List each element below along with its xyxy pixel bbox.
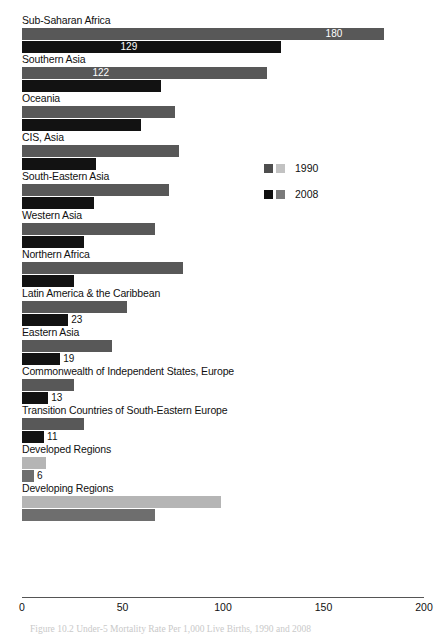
bar-value-label: 26 [0,274,71,287]
chart-group: Northern Africa8026 [0,248,439,287]
bar-value-label: 76 [0,105,172,118]
bar-value-label: 66 [0,508,152,521]
bar-value-label: 45 [0,339,109,352]
chart-group: Transition Countries of South-Eastern Eu… [0,404,439,443]
chart-group: Eastern Asia4519 [0,326,439,365]
group-category-label: Developed Regions [0,443,439,456]
bar-2008[interactable] [22,353,60,365]
legend-label: 1990 [295,162,318,175]
group-category-label: Oceania [0,92,439,105]
bar-2008[interactable] [22,314,68,326]
bar-row: 122 [22,67,439,79]
bar-row: 45 [22,340,439,352]
bar-row: 69 [22,80,439,92]
group-category-label: Eastern Asia [0,326,439,339]
chart-group: Western Asia6631 [0,209,439,248]
legend-item-2008[interactable]: 2008 [264,186,384,202]
bar-row: 78 [22,145,439,157]
bar-value-label: 11 [47,430,57,443]
bar-row: 66 [22,509,439,521]
legend-swatch-primary [264,164,273,173]
bar-value-label: 37 [0,157,93,170]
group-category-label: Northern Africa [0,248,439,261]
bar-value-label: 73 [0,183,166,196]
x-tick-150: 150 [315,600,333,614]
bar-row: 129 [22,41,439,53]
bar-value-label: 36 [0,196,91,209]
bar-value-label: 129 [121,40,279,53]
figure-under5-mortality: Sub-Saharan Africa180129Southern Asia122… [0,0,439,637]
bar-row: 26 [22,379,439,391]
bar-row: 12 [22,457,439,469]
bar-row: 31 [22,236,439,248]
x-tick-50: 50 [117,600,129,614]
bar-row: 80 [22,262,439,274]
bar-2008[interactable] [22,470,34,482]
x-tick-0: 0 [19,600,25,614]
chart-group: Developing Regions9966 [0,482,439,521]
bar-row: 99 [22,496,439,508]
x-tick-200: 200 [415,600,433,614]
bar-value-label: 122 [92,66,264,79]
bar-value-label: 12 [0,456,43,469]
bar-row: 180 [22,28,439,40]
legend-swatch-secondary [276,190,285,199]
bar-value-label: 78 [0,144,176,157]
bar-row: 31 [22,418,439,430]
chart-group: Commonwealth of Independent States, Euro… [0,365,439,404]
legend-swatch-primary [264,190,273,199]
bar-value-label: 66 [0,222,152,235]
x-tick-100: 100 [214,600,232,614]
figure-caption: Figure 10.2 Under-5 Mortality Rate Per 1… [30,623,430,635]
chart-group: Southern Asia12269 [0,53,439,92]
bar-row: 11 [22,431,439,443]
group-category-label: Commonwealth of Independent States, Euro… [0,365,439,378]
bar-row: 23 [22,314,439,326]
bar-value-label: 23 [71,313,82,326]
x-axis-line [22,597,424,598]
x-axis-tick-labels: 050100150200 [0,600,439,616]
bar-row: 66 [22,223,439,235]
bar-value-label: 26 [0,378,71,391]
bar-value-label: 31 [0,417,81,430]
bar-value-label: 180 [326,27,381,40]
legend-label: 2008 [295,188,318,201]
bar-row: 59 [22,119,439,131]
bar-row: 19 [22,353,439,365]
bar-row: 76 [22,106,439,118]
bar-value-label: 59 [0,118,138,131]
chart-group: Sub-Saharan Africa180129 [0,14,439,53]
bar-value-label: 80 [0,261,180,274]
chart-group: Latin America & the Caribbean5223 [0,287,439,326]
bar-row: 6 [22,470,439,482]
group-category-label: Southern Asia [0,53,439,66]
bar-value-label: 6 [37,469,43,482]
chart-group: Oceania7659 [0,92,439,131]
bar-row: 13 [22,392,439,404]
bar-row: 26 [22,275,439,287]
group-category-label: Sub-Saharan Africa [0,14,439,27]
chart-plot-area: Sub-Saharan Africa180129Southern Asia122… [0,14,439,596]
bar-value-label: 13 [51,391,62,404]
bar-value-label: 52 [0,300,124,313]
bar-value-label: 19 [63,352,74,365]
chart-group: Developed Regions126 [0,443,439,482]
group-category-label: Latin America & the Caribbean [0,287,439,300]
bar-value-label: 31 [0,235,81,248]
bar-value-label: 69 [0,79,158,92]
group-category-label: CIS, Asia [0,131,439,144]
legend-swatch-secondary [276,164,285,173]
bar-value-label: 99 [0,495,218,508]
chart-legend: 19902008 [264,160,384,212]
group-category-label: Transition Countries of South-Eastern Eu… [0,404,439,417]
bar-2008[interactable] [22,392,48,404]
bar-2008[interactable] [22,431,44,443]
group-category-label: Developing Regions [0,482,439,495]
bar-row: 52 [22,301,439,313]
legend-item-1990[interactable]: 1990 [264,160,384,176]
